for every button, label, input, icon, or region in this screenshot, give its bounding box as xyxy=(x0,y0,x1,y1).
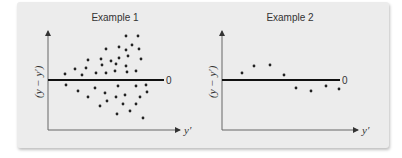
data-point xyxy=(105,72,108,75)
data-point xyxy=(129,110,132,113)
data-point xyxy=(310,90,313,93)
data-point xyxy=(77,90,80,93)
data-point xyxy=(135,85,138,88)
data-point xyxy=(114,70,117,73)
data-point xyxy=(269,64,272,67)
x-axis-label: y′ xyxy=(183,124,192,136)
data-point xyxy=(142,117,145,120)
data-point xyxy=(74,68,77,71)
data-point xyxy=(138,48,141,51)
data-point xyxy=(124,94,127,97)
data-point xyxy=(101,64,104,67)
data-point xyxy=(338,88,341,91)
data-point xyxy=(241,72,244,75)
data-point xyxy=(94,87,97,90)
zero-label: 0 xyxy=(342,75,348,86)
data-point xyxy=(135,70,138,73)
data-point xyxy=(106,100,109,103)
data-point xyxy=(85,67,88,70)
data-point xyxy=(100,58,103,61)
chart-example-1: Example 1 y′ (y − y′) 0 xyxy=(32,12,192,136)
data-point xyxy=(104,92,107,95)
data-point xyxy=(127,55,130,58)
data-point xyxy=(118,46,121,49)
data-point xyxy=(105,48,108,51)
data-point xyxy=(115,63,118,66)
data-point xyxy=(118,57,121,60)
chart-example-2: Example 2 y′ (y − y′) 0 xyxy=(206,12,370,136)
x-axis-label: y′ xyxy=(361,124,370,136)
chart-title: Example 1 xyxy=(91,12,139,23)
data-point xyxy=(110,60,113,63)
data-point xyxy=(117,85,120,88)
y-axis-label: (y − y′) xyxy=(32,65,45,98)
data-point xyxy=(135,103,138,106)
data-point xyxy=(122,103,125,106)
data-point xyxy=(64,73,67,76)
data-point xyxy=(125,65,128,68)
data-point xyxy=(65,84,68,87)
data-point xyxy=(115,96,118,99)
data-point xyxy=(87,96,90,99)
data-point xyxy=(95,72,98,75)
data-point xyxy=(325,85,328,88)
chart-title: Example 2 xyxy=(266,12,314,23)
data-point xyxy=(295,87,298,90)
data-point xyxy=(125,35,128,38)
data-point xyxy=(81,74,84,77)
data-point xyxy=(253,65,256,68)
data-points xyxy=(64,35,149,120)
data-point xyxy=(125,49,128,52)
data-point xyxy=(87,59,90,62)
data-point xyxy=(137,35,140,38)
data-points xyxy=(241,64,341,93)
data-point xyxy=(99,105,102,108)
data-point xyxy=(146,91,149,94)
data-point xyxy=(283,74,286,77)
data-point xyxy=(116,113,119,116)
residual-plots: Example 1 y′ (y − y′) 0 Example 2 y′ (y … xyxy=(0,0,402,158)
data-point xyxy=(139,96,142,99)
data-point xyxy=(126,71,129,74)
data-point xyxy=(145,84,148,87)
data-point xyxy=(131,44,134,47)
zero-label: 0 xyxy=(166,75,172,86)
y-axis-label: (y − y′) xyxy=(206,65,219,98)
data-point xyxy=(140,58,143,61)
